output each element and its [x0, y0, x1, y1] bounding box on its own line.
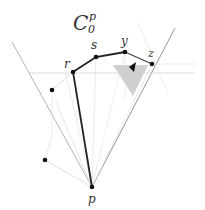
aux-line — [45, 135, 52, 160]
point-q1 — [50, 88, 55, 93]
ray — [65, 70, 92, 187]
title-subscript: 0 — [88, 23, 95, 36]
aux-line — [52, 72, 73, 90]
point-s — [94, 55, 99, 60]
cone-right-boundary — [92, 28, 175, 187]
point-r — [71, 70, 76, 75]
point-p — [90, 185, 95, 190]
point-z — [150, 62, 155, 67]
label-y: y — [120, 34, 128, 48]
point-y — [123, 50, 128, 55]
label-z: z — [147, 47, 154, 60]
title-superscript: p — [89, 10, 96, 23]
title-base: C — [73, 11, 88, 35]
label-p: p — [88, 192, 96, 206]
ray — [92, 57, 96, 187]
ray — [92, 64, 152, 187]
label-s: s — [91, 38, 97, 52]
label-r: r — [64, 57, 71, 71]
point-q2 — [43, 158, 48, 163]
ray — [55, 100, 92, 187]
cone-diagram: C p 0 p r s y z — [0, 0, 205, 210]
